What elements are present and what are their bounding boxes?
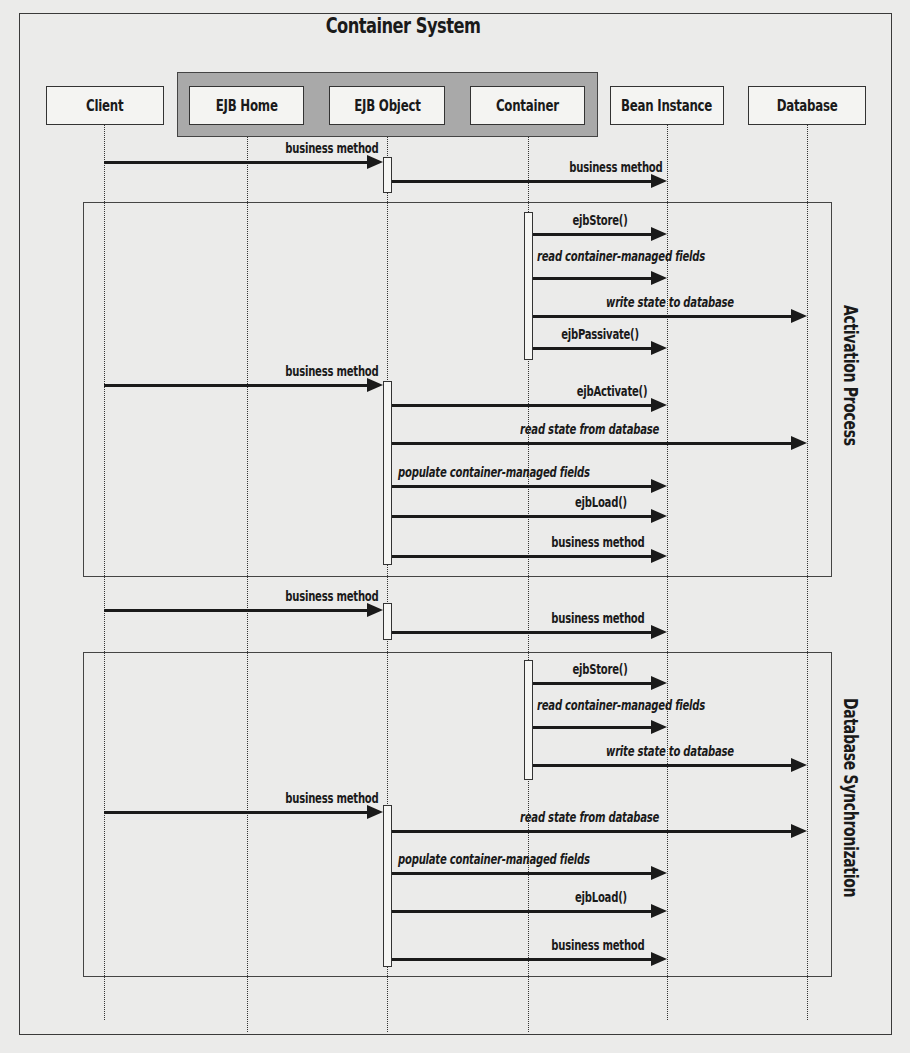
message-label: ejbStore() (546, 661, 653, 677)
activation-process-label: Activation Process (840, 305, 862, 446)
message-label: business method (286, 363, 379, 379)
message-label: read container-managed fields (537, 248, 705, 264)
activation-process-section (83, 202, 832, 577)
arrowhead-icon (651, 676, 667, 690)
message-label: populate container-managed fields (398, 464, 590, 480)
database-sync-label: Database Synchronization (840, 698, 862, 897)
message-label: business method (286, 588, 379, 604)
arrowhead-icon (651, 271, 667, 285)
arrowhead-icon (791, 824, 807, 838)
arrowhead-icon (791, 309, 807, 323)
message-label: business method (286, 140, 379, 156)
activation-bar-container (524, 660, 533, 780)
actor-bean-instance: Bean Instance (610, 86, 724, 125)
arrowhead-icon (651, 549, 667, 563)
message-label: populate container-managed fields (398, 851, 590, 867)
arrowhead-icon (367, 603, 383, 617)
message-label: business method (552, 937, 645, 953)
message-label: ejbStore() (546, 212, 653, 228)
message-label: ejbLoad() (575, 494, 627, 510)
arrowhead-icon (651, 904, 667, 918)
arrowhead-icon (651, 479, 667, 493)
arrowhead-icon (651, 866, 667, 880)
message-label: business method (570, 159, 663, 175)
arrowhead-icon (651, 625, 667, 639)
activation-bar-ejb-object (383, 603, 392, 640)
actor-label: Container (496, 96, 559, 115)
activation-bar-ejb-object (383, 805, 392, 967)
arrowhead-icon (651, 398, 667, 412)
arrowhead-icon (651, 227, 667, 241)
arrowhead-icon (651, 720, 667, 734)
message-label: ejbActivate() (576, 383, 647, 399)
activation-bar-ejb-object (383, 157, 392, 193)
message-label: read state from database (520, 809, 659, 825)
actor-container: Container (470, 86, 585, 125)
actor-label: EJB Object (354, 96, 420, 115)
message-label: ejbPassivate() (546, 326, 653, 342)
message-label: read container-managed fields (537, 697, 705, 713)
activation-bar-ejb-object (383, 381, 392, 565)
arrowhead-icon (651, 509, 667, 523)
actor-database: Database (748, 86, 866, 125)
arrowhead-icon (791, 436, 807, 450)
arrowhead-icon (651, 341, 667, 355)
message-label: business method (552, 534, 645, 550)
message-label: write state to database (560, 743, 779, 759)
message-label: ejbLoad() (575, 889, 627, 905)
actor-ejb-object: EJB Object (329, 86, 445, 125)
message-label: read state from database (520, 421, 659, 437)
arrowhead-icon (651, 174, 667, 188)
arrowhead-icon (367, 155, 383, 169)
message-label: business method (286, 790, 379, 806)
actor-label: Client (86, 96, 123, 115)
actor-ejb-home: EJB Home (189, 86, 304, 125)
actor-label: Bean Instance (621, 96, 712, 115)
arrowhead-icon (791, 758, 807, 772)
message-label: write state to database (560, 294, 779, 310)
actor-label: EJB Home (216, 96, 278, 115)
actor-client: Client (46, 86, 164, 125)
activation-bar-container (524, 212, 533, 360)
container-system-title: Container System (297, 14, 509, 38)
arrowhead-icon (651, 952, 667, 966)
database-sync-section (83, 652, 832, 977)
message-label: business method (552, 610, 645, 626)
arrowhead-icon (367, 805, 383, 819)
actor-label: Database (777, 96, 838, 115)
arrowhead-icon (367, 378, 383, 392)
